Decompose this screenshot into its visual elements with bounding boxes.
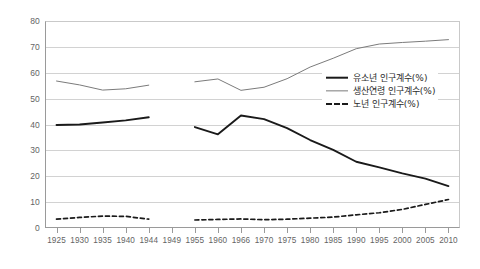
y-tick-label: 40	[2, 120, 40, 130]
x-tick-label: 1955	[186, 236, 205, 245]
x-tick	[379, 228, 380, 233]
x-tick-label: 1970	[255, 236, 274, 245]
y-tick-label: 20	[2, 171, 40, 181]
series-line	[195, 115, 449, 186]
x-axis: 1925193019351940194419491955196019661970…	[45, 236, 460, 256]
x-tick-label: 1960	[209, 236, 228, 245]
series-layer	[45, 21, 460, 228]
x-tick	[448, 228, 449, 233]
series-line	[57, 117, 149, 125]
legend-swatch-youth-icon	[326, 73, 348, 83]
y-tick-label: 70	[2, 42, 40, 52]
x-tick-label: 1949	[162, 236, 181, 245]
x-tick-label: 2000	[393, 236, 412, 245]
x-tick	[287, 228, 288, 233]
x-tick	[264, 228, 265, 233]
x-tick	[241, 228, 242, 233]
x-tick-label: 1925	[47, 236, 66, 245]
y-tick-label: 50	[2, 94, 40, 104]
x-tick	[356, 228, 357, 233]
x-tick	[80, 228, 81, 233]
x-tick	[103, 228, 104, 233]
x-tick-label: 1930	[70, 236, 89, 245]
legend-item-elderly: 노년 인구계수(%)	[326, 97, 435, 110]
series-line	[57, 81, 149, 90]
x-tick-label: 1995	[370, 236, 389, 245]
legend-item-working-age: 생산연령 인구계수(%)	[326, 84, 435, 97]
x-tick-label: 1966	[232, 236, 251, 245]
legend-swatch-working-age-icon	[326, 86, 348, 96]
legend-swatch-elderly-icon	[326, 99, 348, 109]
x-tick-label: 1940	[116, 236, 135, 245]
x-tick-label: 2005	[416, 236, 435, 245]
x-tick	[402, 228, 403, 233]
x-tick	[57, 228, 58, 233]
x-tick	[195, 228, 196, 233]
x-tick-label: 2010	[439, 236, 458, 245]
legend-label-elderly: 노년 인구계수(%)	[353, 97, 419, 110]
x-tick-label: 1935	[93, 236, 112, 245]
y-tick-label: 80	[2, 16, 40, 26]
x-tick	[425, 228, 426, 233]
x-tick-label: 1944	[139, 236, 158, 245]
legend-item-youth: 유소년 인구계수(%)	[326, 71, 435, 84]
y-tick-label: 30	[2, 145, 40, 155]
series-line	[195, 200, 449, 220]
x-tick	[333, 228, 334, 233]
x-tick-label: 1980	[301, 236, 320, 245]
x-tick	[218, 228, 219, 233]
x-tick-label: 1990	[347, 236, 366, 245]
legend-label-youth: 유소년 인구계수(%)	[353, 71, 427, 84]
series-line	[57, 216, 149, 219]
population-coefficient-line-chart: 01020304050607080 1925193019351940194419…	[0, 0, 480, 269]
y-axis: 01020304050607080	[0, 21, 40, 228]
x-tick	[126, 228, 127, 233]
chart-legend: 유소년 인구계수(%) 생산연령 인구계수(%) 노년 인구계수(%)	[322, 69, 438, 112]
y-tick-label: 60	[2, 68, 40, 78]
x-tick	[172, 228, 173, 233]
legend-label-working-age: 생산연령 인구계수(%)	[353, 84, 435, 97]
x-tick	[149, 228, 150, 233]
x-tick-label: 1975	[278, 236, 297, 245]
x-tick	[310, 228, 311, 233]
x-axis-ticks	[45, 228, 460, 233]
y-tick-label: 0	[2, 223, 40, 233]
x-tick-label: 1985	[324, 236, 343, 245]
y-tick-label: 10	[2, 197, 40, 207]
